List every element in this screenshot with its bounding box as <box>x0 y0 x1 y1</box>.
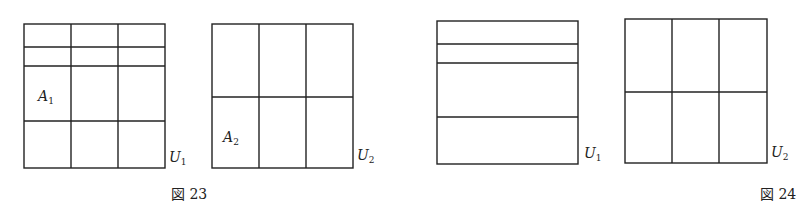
partition-diagrams <box>24 19 767 168</box>
square-outline <box>437 21 578 164</box>
figures-canvas: A1 U1 A2 U2 図 23 U1 U2 図 24 <box>0 0 808 210</box>
space-label-u2: U2 <box>357 147 375 165</box>
partition-square-u1 <box>437 21 578 164</box>
partition-square-u2 <box>625 19 767 163</box>
region-label-a2: A2 <box>221 129 239 147</box>
space-label-u1: U1 <box>169 149 187 167</box>
figure-caption-24: 図 24 <box>760 186 796 202</box>
space-label-u1: U1 <box>584 145 602 163</box>
square-outline <box>625 19 767 163</box>
region-label-a1: A1 <box>36 88 54 106</box>
figure-caption-23: 図 23 <box>171 186 207 202</box>
space-label-u2: U2 <box>771 144 789 162</box>
